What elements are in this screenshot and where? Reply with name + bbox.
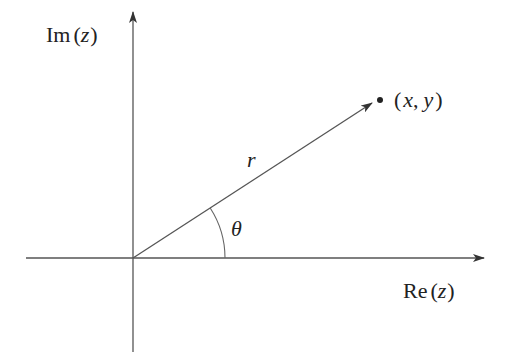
point-dot: [377, 97, 383, 103]
real-axis-label: Re(z): [403, 278, 455, 303]
angle-label-theta: θ: [231, 216, 242, 241]
point-label: (x,y): [394, 87, 443, 112]
vector-r: [133, 103, 372, 258]
vector-label-r: r: [247, 147, 256, 172]
angle-arc: [210, 208, 225, 258]
complex-plane-diagram: Im(z) Re(z) (x,y) r θ: [0, 0, 506, 358]
imaginary-axis-label: Im(z): [46, 22, 98, 47]
